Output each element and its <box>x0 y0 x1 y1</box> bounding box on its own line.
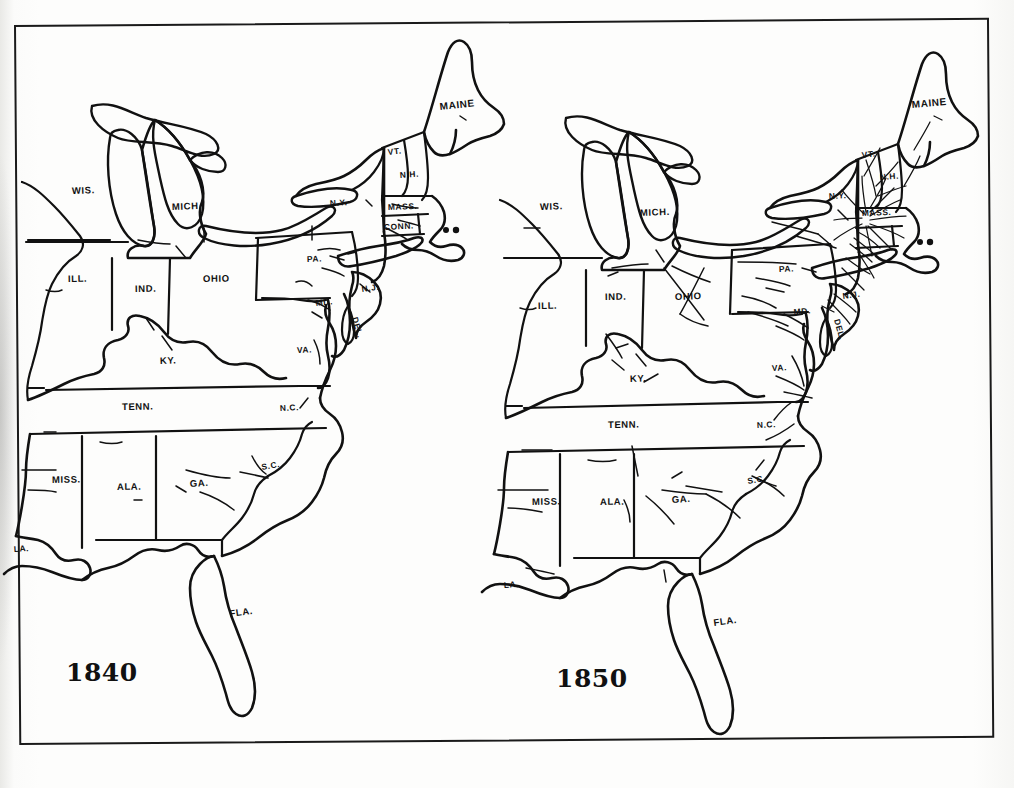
tenn-south-line-1840 <box>30 428 326 434</box>
state-label-wis-1850: WIS. <box>540 200 563 212</box>
state-label-nh-1850: N.H. <box>879 171 899 182</box>
mississippi-west-1840 <box>16 434 30 536</box>
rail-pa2-1850 <box>756 278 790 286</box>
state-label-ky-1840: KY. <box>160 354 177 366</box>
ohio-east-line-1840 <box>256 238 258 300</box>
tenn-south-line-1850 <box>508 446 804 452</box>
louisiana-outline-1850 <box>482 554 569 598</box>
state-label-nj-1850: N.J. <box>842 289 861 301</box>
state-label-ala-1850: ALA. <box>600 496 625 507</box>
state-label-la-1840: LA. <box>13 543 29 554</box>
ri-line-1840 <box>418 214 420 234</box>
state-label-maine-1850: MAINE <box>911 96 947 110</box>
conn-south-1840 <box>382 234 424 236</box>
state-label-la-1850: LA. <box>503 579 519 590</box>
rail-me-rail-1850 <box>914 122 930 150</box>
marthas-vineyard-1840 <box>443 227 449 233</box>
rail-va3-1850 <box>784 392 812 398</box>
state-label-vt-1850: VT. <box>861 149 876 160</box>
rail-mich2-1840 <box>176 246 186 258</box>
rail-ga2-1840 <box>200 492 234 510</box>
rail-miss2-1840 <box>28 490 56 492</box>
state-label-ga-1850: GA. <box>671 493 690 505</box>
map-1840: WIS. MICH. ILL. IND. OHIO KY. TENN. MISS… <box>0 0 510 740</box>
state-label-mich-1850: MICH. <box>640 206 670 218</box>
state-label-ind-1840: IND. <box>135 283 157 294</box>
ky-tenn-line-1840 <box>28 386 300 390</box>
map-1850-outline <box>482 52 978 734</box>
wisconsin-border-1840 <box>22 182 110 240</box>
state-label-vt-1840: VT. <box>387 146 402 157</box>
ga-sc-line-1840 <box>222 476 268 540</box>
map-1850-railroads <box>498 116 942 582</box>
state-label-ga-1840: GA. <box>189 477 208 489</box>
gulf-coast-1850 <box>560 562 692 598</box>
rail-ga1-1840 <box>176 486 186 492</box>
rail-pa4-1840 <box>296 281 312 286</box>
state-label-va-1850: VA. <box>772 362 788 373</box>
rail-ill-1840 <box>46 290 62 292</box>
hudson-1840 <box>372 232 386 282</box>
rail-ga5-1850 <box>646 496 674 524</box>
state-label-nj-1840: N.J. <box>361 282 380 294</box>
state-label-ky-1850: KY. <box>630 372 647 384</box>
rail-ind2-1850 <box>616 344 628 348</box>
long-island-1840 <box>338 237 423 266</box>
florida-outline-1840 <box>190 556 255 716</box>
rail-mich3-1850 <box>656 250 664 262</box>
state-label-nc-1840: N.C. <box>280 402 300 413</box>
state-label-del-1850: DEL. <box>832 318 848 341</box>
rail-nc1-1850 <box>774 402 792 420</box>
rail-mich2-1850 <box>608 272 618 276</box>
state-label-miss-1840: MISS. <box>52 473 81 485</box>
state-label-nc-1850: N.C. <box>757 419 777 430</box>
new-york-outline-1850 <box>770 160 858 244</box>
state-label-sc-1850: S.C. <box>747 473 767 486</box>
maine-outline-1850 <box>898 52 978 167</box>
rail-la-1850 <box>526 568 554 574</box>
rail-ny-1840 <box>366 200 372 206</box>
chesapeake-bay-1840 <box>318 300 330 388</box>
mass-conn-line-1840 <box>382 214 428 216</box>
rail-ky1-1850 <box>636 354 646 366</box>
state-label-mass-1840: MASS. <box>388 201 418 212</box>
year-caption-1850: 1850 <box>556 664 628 693</box>
year-caption-1840: 1840 <box>66 658 138 687</box>
rail-me-rail2-1850 <box>934 116 942 120</box>
state-label-ala-1840: ALA. <box>117 481 142 492</box>
rail-pa3-1840 <box>322 268 344 276</box>
map-1840-outline <box>4 40 504 716</box>
lake-erie-1840 <box>199 207 335 246</box>
rail-pa3-1850 <box>766 288 784 292</box>
state-label-fla-1840: FLA. <box>229 605 254 619</box>
state-label-md-1840: MD. <box>315 296 333 308</box>
ga-fla-line-1840 <box>156 540 222 556</box>
rail-mich1-1850 <box>612 264 648 268</box>
rail-ne-hub-g-1850 <box>862 176 866 212</box>
state-label-mass-1850: MASS. <box>862 207 892 218</box>
ky-tenn-line-1850 <box>506 402 778 408</box>
state-label-mich-1840: MICH. <box>172 200 202 212</box>
rail-md2-1840 <box>312 312 322 318</box>
state-label-md-1850: MD. <box>793 305 811 317</box>
state-label-miss-1850: MISS. <box>532 495 561 507</box>
ri-line-1850 <box>892 226 894 246</box>
state-label-ill-1850: ILL. <box>538 300 557 311</box>
nantucket-1850 <box>927 239 933 245</box>
ohio-east-line-1850 <box>730 250 732 314</box>
conn-south-1850 <box>856 246 898 248</box>
rail-va2-1850 <box>776 376 804 390</box>
lake-huron-1850 <box>627 132 677 240</box>
state-label-ind-1850: IND. <box>605 291 627 302</box>
louisiana-outline-1840 <box>4 536 91 580</box>
rail-sc2-1850 <box>756 460 764 470</box>
rail-pa4-1850 <box>742 296 776 308</box>
state-label-conn-1840: CONN. <box>384 220 414 232</box>
ind-ohio-line-1840 <box>168 258 170 334</box>
state-label-ny-1840: N.Y. <box>330 197 348 208</box>
rail-md2-1850 <box>776 326 804 340</box>
atlantic-coast-south-1840 <box>222 398 343 556</box>
rail-ga1-1850 <box>686 486 722 492</box>
state-label-va-1840: VA. <box>297 344 312 355</box>
ind-ohio-line-1850 <box>642 270 644 348</box>
